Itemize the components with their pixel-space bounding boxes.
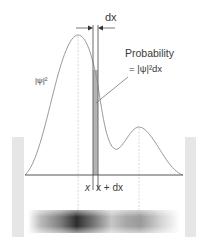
probability-leader-line [96,77,128,103]
x-plus-dx-label: x + dx [96,183,123,193]
probability-density-bar-fade [28,210,180,233]
probability-strip [93,70,98,175]
probability-label-line1: Probability [125,47,174,59]
probability-formula: = |ψ|²dx [129,64,162,74]
x-label-text: x [85,182,90,193]
probability-label: Probability [125,48,174,59]
x-label: x [85,183,90,193]
psi-squared-label-text: |ψ|² [35,76,48,85]
wavefunction-probability-diagram [0,0,203,249]
dx-arrow-left-head [88,26,93,31]
x-plus-dx-label-text: x + dx [96,182,123,193]
probability-label-line2: = |ψ|²dx [129,63,162,74]
left-wall [12,137,24,237]
dx-label-text: dx [105,11,117,23]
dx-label: dx [105,12,117,23]
dx-arrow-right-head [98,26,103,31]
psi-squared-label: |ψ|² [35,77,48,85]
right-wall [185,137,196,237]
